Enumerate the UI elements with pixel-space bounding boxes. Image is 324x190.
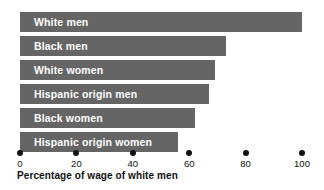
bar-label: Black men	[34, 36, 88, 56]
bar-label: Black women	[34, 108, 103, 128]
bar-row: Black men	[20, 36, 226, 56]
bar-row: Hispanic origin men	[20, 84, 209, 104]
bar-label: White men	[34, 12, 88, 32]
tick-dot-marker	[17, 150, 23, 156]
bar-label: Hispanic origin men	[34, 84, 137, 104]
tick-dot-marker	[73, 150, 79, 156]
bar-row: White men	[20, 12, 302, 32]
bar-row: White women	[20, 60, 215, 80]
tick-dot-marker	[299, 150, 305, 156]
x-axis-tick-label: 40	[128, 158, 139, 169]
tick-dot-marker	[186, 150, 192, 156]
x-axis-tick-label: 100	[294, 158, 310, 169]
x-axis-tick-label: 20	[71, 158, 82, 169]
x-axis-tick-label: 80	[240, 158, 251, 169]
bar-chart: White menBlack menWhite womenHispanic or…	[0, 0, 324, 190]
x-axis-tick-label: 0	[17, 158, 22, 169]
tick-dot-marker	[130, 150, 136, 156]
tick-dot-marker	[243, 150, 249, 156]
bar-label: White women	[34, 60, 103, 80]
x-axis-title: Percentage of wage of white men	[17, 170, 178, 181]
bar-label: Hispanic origin women	[34, 132, 152, 152]
x-axis-tick-label: 60	[184, 158, 195, 169]
bar-row: Hispanic origin women	[20, 132, 178, 152]
bar-row: Black women	[20, 108, 195, 128]
plot-area: White menBlack menWhite womenHispanic or…	[0, 0, 324, 152]
